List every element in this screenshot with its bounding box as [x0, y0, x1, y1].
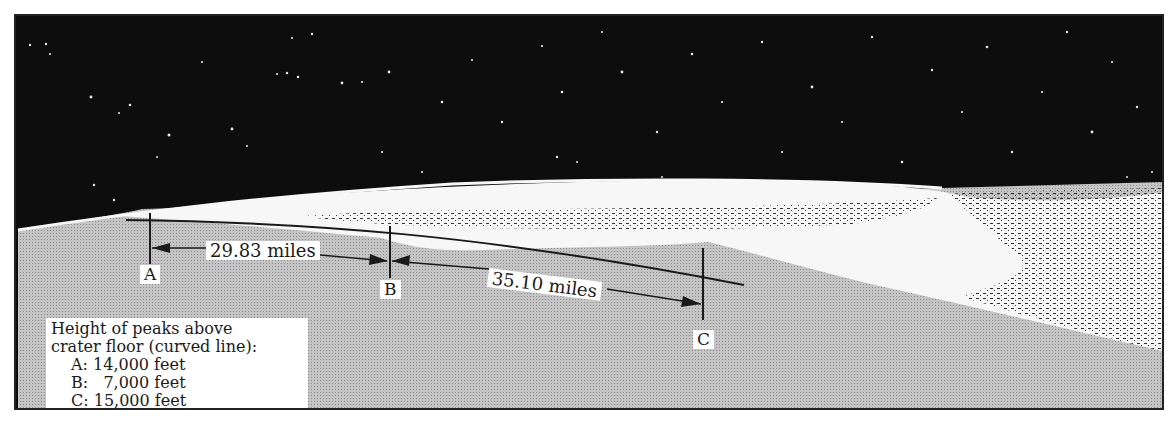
crater-diagram: A B C 29.83 miles 35.10 miles Height of …: [14, 14, 1164, 410]
legend-row-a: A: 14,000 feet: [51, 356, 302, 374]
distance-label-ab: 29.83 miles: [206, 241, 320, 260]
legend-title-line1: Height of peaks above: [51, 320, 302, 338]
height-legend: Height of peaks above crater floor (curv…: [46, 318, 308, 410]
legend-row-c: C: 15,000 feet: [51, 392, 302, 410]
point-label-c: C: [693, 330, 714, 349]
point-label-b: B: [380, 280, 401, 299]
point-label-a: A: [140, 265, 160, 284]
legend-row-b: B: 7,000 feet: [51, 374, 302, 392]
legend-title-line2: crater floor (curved line):: [51, 338, 302, 356]
